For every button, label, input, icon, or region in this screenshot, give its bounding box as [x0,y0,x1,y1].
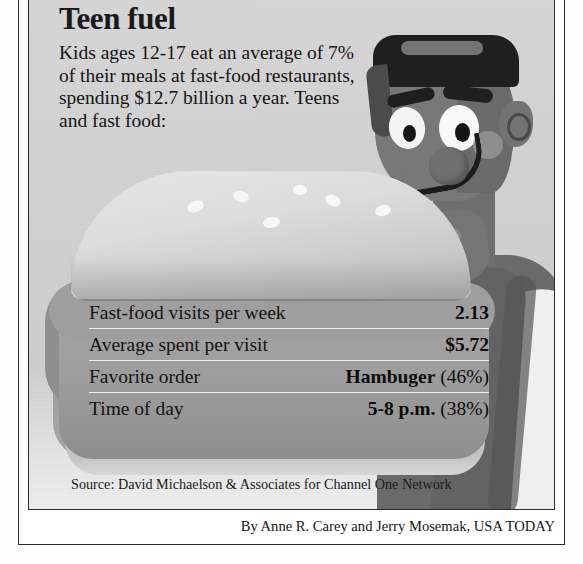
character-left-pupil [403,125,416,142]
row-percent: (46%) [435,366,489,387]
row-label: Average spent per visit [89,334,268,356]
headline: Teen fuel [59,3,176,34]
row-value: 2.13 [455,302,489,324]
row-value: 5-8 p.m. (38%) [368,398,489,420]
table-row: Fast-food visits per week 2.13 [89,297,489,328]
source-line: Source: David Michaelson & Associates fo… [71,476,452,493]
row-label: Favorite order [89,366,200,388]
graphic-panel: Teen fuel Kids ages 12-17 eat an average… [28,0,555,510]
burger-top-bun-shading [71,257,471,301]
row-label: Time of day [89,398,184,420]
row-percent: (38%) [435,398,489,419]
row-value: Hambuger (46%) [345,366,489,388]
row-value: $5.72 [445,334,489,356]
infographic-page: Teen fuel Kids ages 12-17 eat an average… [0,0,583,564]
table-row: Time of day 5-8 p.m. (38%) [89,392,489,424]
character-hair-highlight [401,41,483,55]
character-ear-inner [507,113,531,141]
table-row: Favorite order Hambuger (46%) [89,360,489,392]
byline: By Anne R. Carey and Jerry Mosemak, USA … [241,518,555,535]
statistics-table: Fast-food visits per week 2.13 Average s… [89,297,489,424]
row-label: Fast-food visits per week [89,302,286,324]
table-row: Average spent per visit $5.72 [89,328,489,360]
lede-paragraph: Kids ages 12-17 eat an average of 7% of … [59,42,369,132]
